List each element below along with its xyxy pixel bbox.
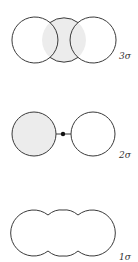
orbital-2sigma bbox=[12, 112, 115, 156]
label-3sigma: 3σ bbox=[119, 52, 131, 61]
label-1sigma: 1σ bbox=[119, 253, 131, 262]
orbital-3sigma bbox=[12, 17, 116, 63]
orbital-1sigma bbox=[11, 210, 116, 256]
label-2sigma: 2σ bbox=[119, 151, 131, 160]
